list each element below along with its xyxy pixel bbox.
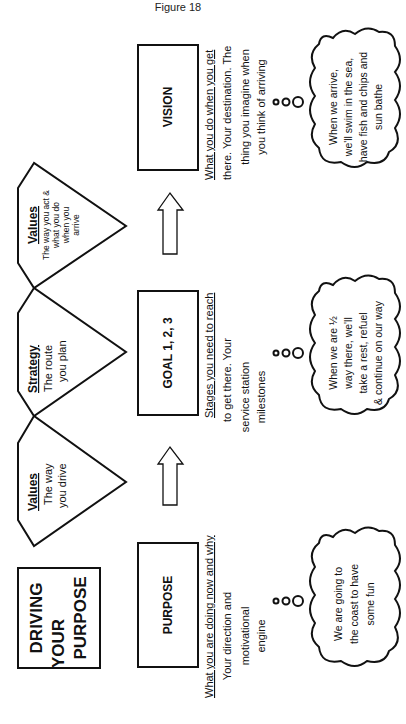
svg-text:service station: service station: [239, 362, 251, 432]
thought-dot-icon: [283, 350, 290, 357]
svg-text:YOUR: YOUR: [49, 619, 68, 668]
svg-text:there. Your destination. The: there. Your destination. The: [221, 46, 233, 180]
svg-text:the coast to have: the coast to have: [348, 564, 360, 644]
svg-text:what you do: what you do: [51, 202, 61, 249]
driving-purpose-diagram: DRIVING YOUR PURPOSE VISION GOAL 1, 2, 3…: [0, 0, 406, 724]
thought-dot-icon: [274, 351, 279, 356]
svg-text:arrive: arrive: [71, 214, 81, 236]
purpose-description: Your direction and motivational engine: [221, 592, 267, 680]
purpose-label: PURPOSE: [161, 576, 175, 635]
svg-text:The way: The way: [42, 463, 54, 505]
svg-text:you plan: you plan: [56, 340, 68, 382]
svg-text:have fish and chips and: have fish and chips and: [357, 52, 369, 162]
svg-text:Values: Values: [26, 206, 40, 244]
vision-description: there. Your destination. The thing you i…: [221, 46, 267, 180]
svg-text:We are going to: We are going to: [332, 567, 344, 641]
svg-text:Your direction and: Your direction and: [221, 592, 233, 680]
svg-text:we'll swim in the sea,: we'll swim in the sea,: [342, 58, 354, 157]
purpose-heading: What you are doing now and why: [203, 535, 215, 698]
svg-text:The way you act &: The way you act &: [41, 190, 51, 260]
vision-heading: What you do when you get: [203, 50, 215, 180]
svg-text:milestones: milestones: [255, 370, 267, 423]
goal-label: GOAL 1, 2, 3: [161, 317, 175, 388]
svg-text:PURPOSE: PURPOSE: [71, 576, 90, 659]
svg-text:way there, we'll: way there, we'll: [342, 317, 354, 389]
thought-dot-icon: [293, 596, 303, 606]
vision-label: VISION: [161, 87, 175, 128]
thought-dot-icon: [293, 348, 303, 358]
up-arrow-icon: [158, 447, 183, 505]
svg-text:you think of arriving: you think of arriving: [255, 59, 267, 154]
svg-text:When we are ½: When we are ½: [327, 316, 339, 390]
svg-text:some fun: some fun: [364, 582, 376, 625]
svg-text:Strategy: Strategy: [26, 345, 40, 393]
up-arrow-icon: [158, 193, 183, 254]
svg-text:The route: The route: [42, 345, 54, 392]
svg-text:& continue on our way: & continue on our way: [372, 300, 384, 405]
svg-text:engine: engine: [255, 619, 267, 652]
goal-description: to get there. Your service station miles…: [221, 338, 267, 432]
svg-text:to get there. Your: to get there. Your: [221, 338, 233, 422]
thought-cloud-goal: [310, 275, 400, 414]
thought-dot-icon: [283, 99, 290, 106]
thought-dot-icon: [274, 100, 279, 105]
thought-dot-icon: [274, 599, 279, 604]
svg-text:sun bathe: sun bathe: [372, 84, 384, 130]
thought-dot-icon: [293, 97, 303, 107]
svg-text:motivational: motivational: [239, 607, 251, 666]
svg-text:thing you imagine when: thing you imagine when: [239, 49, 251, 165]
goal-heading: Stages you need to reach: [203, 293, 215, 418]
title-box-text: DRIVING YOUR PURPOSE: [27, 576, 90, 668]
svg-text:When we arrive,: When we arrive,: [327, 69, 339, 145]
svg-text:Values: Values: [26, 473, 40, 511]
svg-text:you drive: you drive: [56, 463, 68, 508]
thought-cloud-vision: [310, 28, 400, 167]
thought-dot-icon: [283, 598, 290, 605]
svg-text:DRIVING: DRIVING: [27, 583, 46, 654]
svg-text:take a rest, refuel: take a rest, refuel: [357, 312, 369, 393]
svg-text:when you: when you: [61, 207, 71, 245]
